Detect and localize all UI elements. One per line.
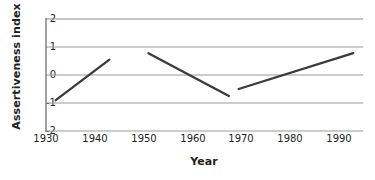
gridlines [46, 19, 363, 131]
x-axis-tick-label: 1950 [124, 134, 164, 144]
x-axis-tick-label: 1990 [319, 134, 359, 144]
trend-line-segment [56, 60, 110, 101]
x-axis-tick-label: 1980 [270, 134, 310, 144]
x-axis-tick-label: 1960 [173, 134, 213, 144]
x-axis-tick-label: 1930 [26, 134, 66, 144]
x-axis-title: Year [45, 155, 363, 168]
x-axis-tick-label: 1970 [221, 134, 261, 144]
plot-area [0, 0, 375, 180]
chart-figure: Assertiveness index 2 1 0 -1 -2 1930 194… [0, 0, 375, 180]
data-lines [56, 53, 353, 100]
trend-line-segment [239, 53, 354, 89]
x-axis-tick-label: 1940 [75, 134, 115, 144]
